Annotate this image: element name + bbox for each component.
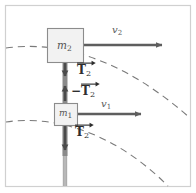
tension-minus-t2-subscript: 2	[90, 90, 95, 99]
block-m2-label: m2	[57, 40, 72, 52]
velocity-v2-label: v2	[112, 25, 122, 37]
tension-minus-t2-sign: −	[71, 84, 81, 98]
tension-t2-lower-label: T2	[75, 126, 89, 140]
tension-t2-upper-symbol: T	[77, 63, 86, 77]
physics-diagram-figure: m2 m1 v2 v1 T2 −T2 T2	[0, 0, 196, 193]
velocity-v2-subscript: 2	[118, 29, 122, 37]
tension-minus-t2-label: −T2	[71, 85, 95, 99]
diagram-canvas	[0, 0, 196, 193]
block-m1-symbol: m	[59, 108, 68, 118]
tension-t2-lower-symbol: T	[75, 125, 84, 139]
block-m1-subscript: 1	[68, 111, 73, 120]
tension-t2-upper-subscript: 2	[86, 69, 91, 78]
tension-minus-t2-symbol: T	[81, 84, 90, 98]
block-m2-subscript: 2	[67, 44, 72, 53]
block-m2-symbol: m	[57, 39, 67, 51]
velocity-v1-subscript: 1	[107, 103, 111, 111]
tension-t2-upper-label: T2	[77, 64, 91, 78]
velocity-v1-label: v1	[101, 99, 111, 111]
tension-t2-lower-subscript: 2	[84, 131, 89, 140]
block-m1-label: m1	[59, 109, 72, 119]
